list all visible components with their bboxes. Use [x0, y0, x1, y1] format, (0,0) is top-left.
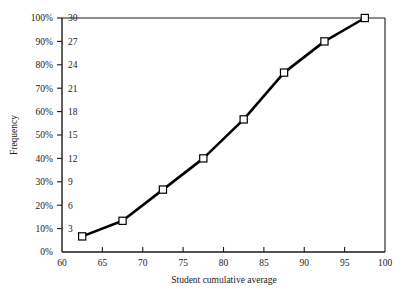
x-tick-label: 60 [57, 258, 67, 268]
y-tick-label-percent: 0% [40, 247, 53, 257]
y-tick-label-percent: 40% [36, 154, 54, 164]
y-tick-label-percent: 90% [36, 37, 54, 47]
x-tick-label: 95 [340, 258, 350, 268]
data-series-group [79, 14, 369, 240]
data-point-marker [200, 155, 207, 162]
y-tick-label-percent: 20% [36, 201, 54, 211]
x-axis-ticks: 6065707580859095100 [57, 247, 392, 268]
y-tick-label-frequency: 15 [68, 130, 78, 140]
plot-frame [62, 18, 385, 252]
y-tick-label-frequency: 6 [68, 201, 73, 211]
y-axis-frequency-labels: 36912151821242730 [68, 13, 78, 234]
x-tick-label: 85 [259, 258, 269, 268]
x-tick-label: 70 [138, 258, 148, 268]
x-axis-title: Student cumulative average [171, 275, 277, 285]
x-tick-label: 100 [378, 258, 393, 268]
y-tick-label-frequency: 12 [68, 154, 78, 164]
y-tick-label-frequency: 24 [68, 60, 78, 70]
data-point-marker [79, 233, 86, 240]
data-point-marker [280, 69, 287, 76]
y-axis-title: Frequency [9, 115, 19, 155]
data-point-marker [321, 38, 328, 45]
data-point-marker [361, 14, 368, 21]
y-tick-label-frequency: 18 [68, 107, 78, 117]
y-tick-label-frequency: 30 [68, 13, 78, 23]
data-point-marker [119, 217, 126, 224]
x-tick-label: 65 [98, 258, 108, 268]
y-tick-label-frequency: 21 [68, 84, 78, 94]
y-tick-label-percent: 70% [36, 84, 54, 94]
y-tick-label-percent: 60% [36, 107, 54, 117]
data-markers [79, 14, 369, 240]
y-tick-label-percent: 10% [36, 224, 54, 234]
data-point-marker [159, 186, 166, 193]
y-axis: 0%10%20%30%40%50%60%70%80%90%100% 369121… [9, 13, 78, 257]
y-tick-label-percent: 50% [36, 130, 54, 140]
x-axis: 6065707580859095100 Student cumulative a… [57, 247, 392, 285]
y-tick-label-percent: 30% [36, 177, 54, 187]
y-tick-label-frequency: 9 [68, 177, 73, 187]
chart-container: 0%10%20%30%40%50%60%70%80%90%100% 369121… [0, 0, 403, 298]
y-tick-label-frequency: 27 [68, 37, 78, 47]
ogive-chart: 0%10%20%30%40%50%60%70%80%90%100% 369121… [0, 0, 403, 298]
x-tick-label: 75 [178, 258, 188, 268]
y-tick-label-percent: 100% [31, 13, 53, 23]
x-tick-label: 80 [219, 258, 229, 268]
data-line-cumulative-frequency [82, 18, 365, 236]
y-tick-label-frequency: 3 [68, 224, 73, 234]
x-tick-label: 90 [300, 258, 310, 268]
data-point-marker [240, 116, 247, 123]
y-axis-percent-ticks: 0%10%20%30%40%50%60%70%80%90%100% [31, 13, 62, 257]
y-tick-label-percent: 80% [36, 60, 54, 70]
